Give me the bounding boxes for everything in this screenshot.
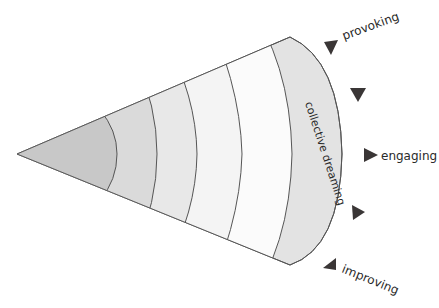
marker-provoking-icon [324,40,338,55]
cone-diagram: collective dreaming provoking engaging i… [0,0,439,308]
marker-down-icon [350,88,366,102]
marker-label-engaging: engaging [381,149,437,163]
marker-right-icon [352,205,365,220]
marker-improving-icon [323,258,336,270]
marker-label-provoking: provoking [340,9,401,43]
marker-label-improving: improving [340,262,401,298]
marker-engaging-icon [364,148,378,162]
